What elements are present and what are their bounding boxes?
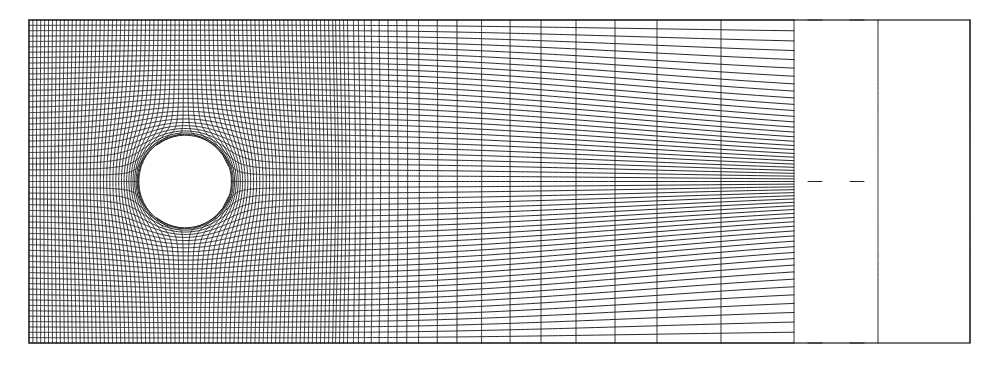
mesh-vertical-line: [139, 20, 180, 343]
mesh-vertical-line: [138, 20, 175, 343]
mesh-horizontal-line: [29, 236, 794, 274]
mesh-vertical-line: [136, 20, 166, 343]
mesh-vertical-line: [188, 20, 229, 343]
mesh-horizontal-lines: [29, 20, 864, 343]
mesh-horizontal-line: [29, 103, 794, 141]
mesh-vertical-line: [192, 20, 232, 343]
mesh-horizontal-line: [29, 89, 794, 127]
mesh-horizontal-line: [29, 303, 794, 322]
cylinder-mesh-figure: [0, 0, 1007, 369]
mesh-horizontal-line: [29, 222, 794, 260]
mesh-horizontal-line: [29, 40, 794, 59]
mesh-vertical-line: [205, 20, 235, 343]
